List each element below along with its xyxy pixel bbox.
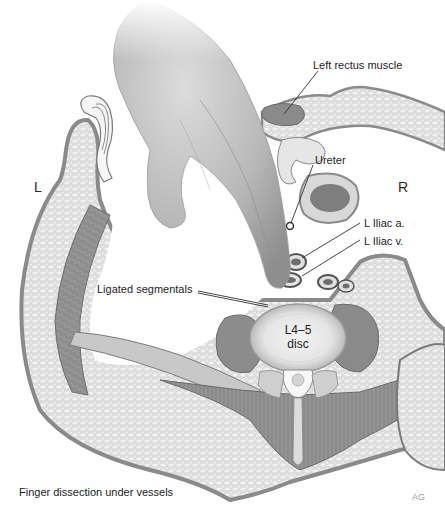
anatomy-illustration xyxy=(0,0,445,512)
label-ligated-segmentals: Ligated segmentals xyxy=(97,284,192,295)
disc-label-word: disc xyxy=(278,337,318,351)
spinous-process xyxy=(293,398,303,465)
left-side-label: L xyxy=(34,180,42,194)
ureter xyxy=(287,223,294,230)
disc-label: L4–5 disc xyxy=(278,323,318,351)
label-left-rectus-muscle: Left rectus muscle xyxy=(313,60,402,71)
artist-signature: AG xyxy=(412,492,425,502)
disc-label-level: L4–5 xyxy=(278,323,318,337)
label-ureter: Ureter xyxy=(315,155,346,166)
label-left-iliac-vein: L Iliac v. xyxy=(364,236,403,247)
illustration-canvas: L R Left rectus muscle Ureter L Iliac a.… xyxy=(0,0,445,512)
right-side-label: R xyxy=(398,180,408,194)
figure-caption: Finger dissection under vessels xyxy=(19,486,173,498)
left-rectus-muscle xyxy=(262,103,305,125)
label-left-iliac-artery: L Iliac a. xyxy=(364,218,405,229)
